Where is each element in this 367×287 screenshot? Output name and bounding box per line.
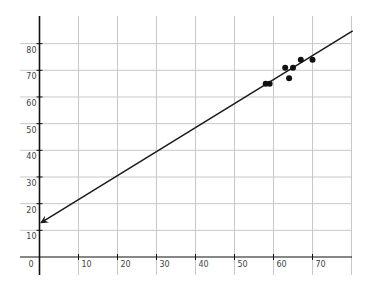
x-tick-label: 30	[160, 260, 170, 269]
grid-lines	[20, 16, 352, 275]
trend-line	[41, 31, 353, 223]
data-point	[298, 57, 304, 63]
y-tick-label: 40	[26, 152, 36, 161]
x-tick-label: 60	[277, 260, 287, 269]
y-tick-label: 80	[26, 46, 36, 55]
x-axis-ticks: 010203040506070	[28, 254, 325, 269]
x-tick-label: 20	[121, 260, 131, 269]
x-tick-label: 70	[316, 260, 326, 269]
x-tick-label: 0	[28, 260, 33, 269]
scatter-chart: 010203040506070 1020304050607080	[0, 0, 367, 287]
regression-line	[41, 31, 353, 223]
y-tick-label: 60	[26, 99, 36, 108]
data-point	[282, 65, 288, 71]
y-tick-label: 30	[26, 179, 36, 188]
data-point	[286, 75, 292, 81]
x-tick-label: 40	[199, 260, 209, 269]
x-tick-label: 10	[82, 260, 92, 269]
data-point	[310, 57, 316, 63]
data-point	[290, 65, 296, 71]
x-tick-label: 50	[238, 260, 248, 269]
axes	[20, 16, 352, 275]
data-points	[263, 57, 316, 87]
y-tick-label: 70	[26, 72, 36, 81]
y-tick-label: 10	[26, 232, 36, 241]
y-tick-label: 20	[26, 206, 36, 215]
y-tick-label: 50	[26, 126, 36, 135]
data-point	[267, 81, 273, 87]
